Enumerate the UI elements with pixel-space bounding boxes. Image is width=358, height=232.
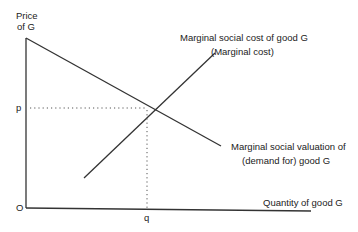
x-axis-label: Quantity of good G xyxy=(263,197,343,209)
supply-curve xyxy=(84,53,215,178)
demand-label: Marginal social valuation of xyxy=(231,141,346,153)
origin-label: O xyxy=(16,202,23,214)
quantity-label: q xyxy=(144,212,149,224)
demand-curve xyxy=(26,38,221,146)
price-label: p xyxy=(16,102,21,114)
y-axis-label-2: of G xyxy=(17,21,35,33)
supply-label: Marginal social cost of good G xyxy=(180,32,308,44)
supply-label-2: (Marginal cost) xyxy=(211,46,274,58)
demand-label-2: (demand for) good G xyxy=(242,155,330,167)
